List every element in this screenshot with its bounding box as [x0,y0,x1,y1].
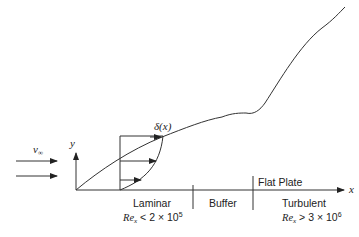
y-axis-label: y [69,137,75,149]
laminar-label: Laminar [133,197,171,209]
freestream-velocity-label: v∞ [33,143,43,157]
x-axis-label: x [348,183,354,195]
turbulent-label: Turbulent [282,197,326,209]
freestream-arrows [16,161,57,176]
boundary-layer-label: δ(x) [154,120,172,133]
velocity-profile [120,136,163,190]
turbulent-condition: Rex > 3 × 106 [281,211,342,225]
boundary-layer-curve [76,7,345,190]
boundary-layer-diagram: v∞ y x δ(x) Flat Plate Laminar Rex < 2 ×… [0,0,359,237]
buffer-label: Buffer [209,197,237,209]
laminar-condition: Rex < 2 × 105 [122,211,183,225]
flat-plate-label: Flat Plate [258,176,303,188]
